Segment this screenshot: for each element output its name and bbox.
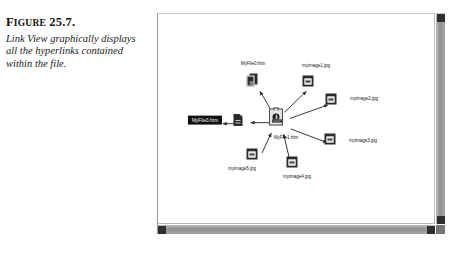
scroll-left-button[interactable]: [158, 226, 166, 234]
node-label-root: MyFile1.htm: [274, 135, 298, 141]
figure-number: FIGURE 25.7.: [6, 16, 138, 30]
web-page-icon[interactable]: [269, 109, 283, 126]
image-icon[interactable]: [325, 134, 336, 145]
image-icon[interactable]: [303, 76, 314, 87]
node-label-myimage4: myimage4.jpg: [283, 174, 311, 180]
node-label-selected[interactable]: MyFile3.htm: [188, 116, 222, 125]
figure-caption-text: Link View graphically displays all the h…: [6, 33, 138, 70]
image-icon[interactable]: [247, 149, 258, 160]
node-label-myimage1: myimage1.jpg: [302, 63, 330, 69]
figure-word-rest: IGURE: [14, 18, 46, 28]
figure-word-lead: F: [6, 15, 14, 29]
node-label-myfile0: MyFile0.htm: [241, 61, 265, 67]
image-icon[interactable]: [326, 94, 337, 105]
node-label-myimage5: myimage5.jpg: [228, 166, 256, 172]
link-view-window: MyFile3.htm MyFile0.htm: [157, 13, 445, 234]
scroll-right-button[interactable]: [427, 226, 435, 234]
link-view-canvas[interactable]: MyFile3.htm MyFile0.htm: [158, 14, 435, 224]
page-stack-icon[interactable]: [247, 74, 258, 87]
node-label-myimage3: myimage3.jpg: [349, 138, 377, 144]
vertical-scrollbar[interactable]: [436, 14, 445, 224]
scroll-up-button[interactable]: [437, 14, 445, 22]
node-label-myimage2: myimage2.jpg: [350, 96, 378, 102]
scrollbar-corner: [436, 225, 445, 234]
figure-caption: FIGURE 25.7. Link View graphically displ…: [6, 16, 138, 70]
page-icon[interactable]: [234, 114, 243, 126]
scroll-down-button[interactable]: [437, 216, 445, 224]
image-icon[interactable]: [287, 157, 298, 168]
figure-number-value: 25.7.: [49, 15, 75, 29]
horizontal-scrollbar[interactable]: [158, 225, 435, 234]
